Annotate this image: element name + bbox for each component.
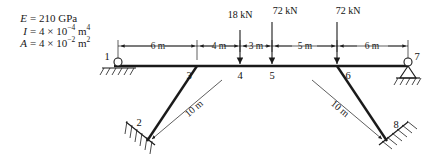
pin-triangle: [400, 66, 416, 78]
load-label-node-5: 72 kN: [273, 5, 298, 16]
node-label-2: 2: [136, 117, 141, 128]
node-label-4: 4: [237, 70, 243, 81]
dimension-label-4-5: 3 m: [249, 41, 264, 51]
members-group: [114, 66, 408, 141]
support-pin-node-7: [394, 58, 421, 85]
node-label-3: 3: [186, 70, 191, 81]
roller-circle: [114, 58, 122, 66]
member-length-group: 10 m 10 m: [152, 80, 382, 139]
load-group: 18 kN 72 kN 72 kN: [228, 5, 361, 64]
node-label-6: 6: [345, 70, 350, 81]
dimension-line-group: 6 m 4 m 3 m 5 m 6 m: [118, 40, 408, 60]
load-label-node-4: 18 kN: [228, 9, 253, 20]
roller-hatching: [100, 68, 134, 75]
node-label-7: 7: [414, 51, 419, 62]
node-label-8: 8: [393, 119, 398, 130]
member-length-label-6-8: 10 m: [329, 98, 352, 120]
pin-hatching: [394, 78, 421, 85]
fixed-8-hatching: [382, 121, 417, 149]
frame-svg: 6 m 4 m 3 m 5 m 6 m 18 kN 72 kN 72 kN 10…: [0, 0, 426, 168]
pin-circle: [404, 58, 412, 66]
node-label-1: 1: [104, 51, 109, 62]
dimension-label-6-7: 6 m: [365, 41, 380, 51]
frame-diagram: E=210 GPa I=4 × 10−4 m4 A=4 × 10−2 m2: [0, 0, 426, 168]
node-label-5: 5: [269, 70, 274, 81]
dimension-label-5-6: 5 m: [298, 41, 313, 51]
dimension-label-3-4: 4 m: [212, 41, 227, 51]
member-length-label-2-3: 10 m: [182, 97, 205, 119]
load-label-node-6: 72 kN: [336, 5, 361, 16]
dimension-label-1-3: 6 m: [151, 41, 166, 51]
